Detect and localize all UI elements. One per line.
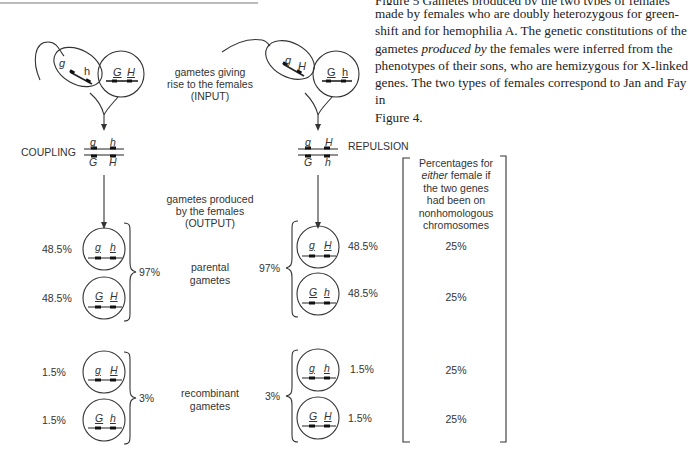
egg-right [313,51,359,97]
repulsion-top-allele-1: g [305,136,311,148]
sperm-tail-right [222,40,270,53]
output-label-line: gametes produced [150,193,270,205]
recombinant-label-line: gametes [160,400,260,413]
coupling-top-allele-2: h [110,136,116,148]
note-line: had been on [408,194,504,206]
gamete-allele: H [110,364,118,376]
input-label-line: rise to the females [150,78,270,90]
coupling-gamete-pct: 48.5% [42,292,72,304]
repulsion-gamete-pct: 1.5% [350,363,374,375]
gamete-allele: h [324,286,330,298]
brace-left-parental [124,223,136,321]
note-emphasis: either [422,169,448,181]
repulsion-gamete-pct: 1.5% [348,412,372,424]
note-line: Percentages for [408,157,504,169]
gamete-circle [297,226,339,268]
independent-pct: 25% [408,291,504,303]
input-label-line: gametes giving [150,66,270,78]
brace-left-recombinant [124,352,136,444]
parental-label: parental gametes [160,261,260,287]
output-label-line: (OUTPUT) [150,217,270,229]
sperm-head-left [47,39,109,94]
brace-right-parental [286,221,298,317]
coupling-recombinant-total: 3% [139,392,154,404]
gamete-allele: G [309,410,317,422]
repulsion-top-allele-2: H [325,136,333,148]
arrow-head-left [101,124,107,131]
gamete-circle [297,273,339,315]
gamete-allele: H [110,290,118,302]
coupling-label: COUPLING [21,146,76,158]
repulsion-recombinant-total: 3% [265,390,280,402]
gamete-circle [297,349,339,391]
input-label-line: (INPUT) [150,90,270,102]
sperm-allele-right-2: H [298,60,306,72]
note-line: nonhomologous [408,207,504,219]
output-label-line: by the females [150,205,270,217]
gamete-circle [83,351,125,393]
independent-assortment-note: Percentages for either female if the two… [408,157,504,231]
gamete-allele: h [324,362,330,374]
coupling-top-allele-1: g [90,136,96,148]
gamete-allele: g [95,241,101,253]
coupling-gamete-pct: 1.5% [42,366,66,378]
sperm-allele-left-2: h [84,65,90,77]
gamete-circle [83,277,125,319]
repulsion-bottom-allele-1: G [304,156,312,168]
arrow-head-right [315,124,321,131]
independent-pct: 25% [408,413,504,425]
coupling-parental-total: 97% [139,266,160,278]
gamete-allele: G [95,290,103,302]
independent-pct: 25% [408,240,504,252]
coupling-bottom-allele-2: H [109,156,117,168]
parental-label-line: gametes [160,274,260,287]
gamete-allele: g [95,364,101,376]
gamete-allele: h [110,241,116,253]
gamete-circle [83,399,125,441]
repulsion-gamete-pct: 48.5% [348,240,378,252]
output-label: gametes produced by the females (OUTPUT) [150,193,270,229]
coupling-gamete-pct: 1.5% [42,414,66,426]
sperm-allele-right-1: g [285,54,291,66]
repulsion-parental-total: 97% [259,262,280,274]
repulsion-bottom-allele-2: h [325,156,331,168]
note-line: chromosomes [408,219,504,231]
note-line: the two genes [408,182,504,194]
gamete-allele: H [324,410,332,422]
gamete-allele: G [309,286,317,298]
egg-allele-right-1: G [327,66,336,78]
note-text: female if [448,169,491,181]
recombinant-label: recombinant gametes [160,387,260,413]
brace-right-recombinant [286,350,298,442]
parental-label-line: parental [160,261,260,274]
gamete-allele: g [309,239,315,251]
sperm-allele-left-1: g [59,57,65,69]
gamete-allele: h [110,412,116,424]
egg-allele-right-2: h [342,66,348,78]
repulsion-label: REPULSION [348,140,409,152]
gamete-circle [83,228,125,270]
gamete-allele: g [309,362,315,374]
coupling-gamete-pct: 48.5% [42,243,72,255]
gamete-circle [297,397,339,439]
recombinant-label-line: recombinant [160,387,260,400]
gamete-allele: G [95,412,103,424]
coupling-bottom-allele-1: G [89,156,97,168]
merge-lines-right [305,93,332,115]
egg-allele-left-1: G [113,66,122,78]
egg-allele-left-2: H [127,66,135,78]
input-label: gametes giving rise to the females (INPU… [150,66,270,102]
independent-pct: 25% [408,364,504,376]
gamete-allele: H [324,239,332,251]
repulsion-gamete-pct: 48.5% [348,287,378,299]
note-line: either female if [408,169,504,181]
